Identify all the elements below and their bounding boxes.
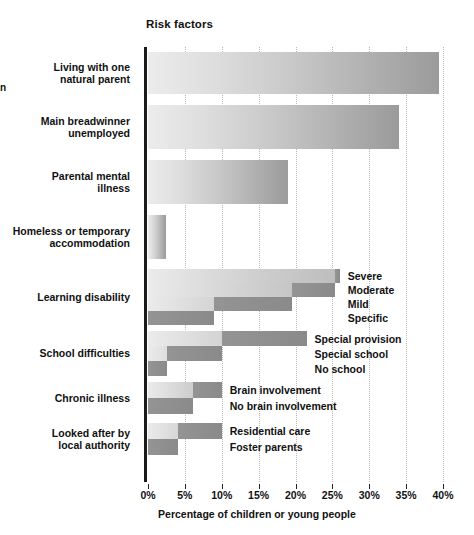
series-label: No school xyxy=(315,363,366,375)
bar-segment xyxy=(222,331,307,346)
bar-segment xyxy=(148,398,193,414)
x-tick-label: 20% xyxy=(285,489,306,501)
x-tick-label: 10% xyxy=(211,489,232,501)
category-label: Chronic illness xyxy=(0,392,139,405)
bar-segment xyxy=(167,346,222,361)
series-label: Residential care xyxy=(230,425,311,437)
series-label: Special provision xyxy=(315,333,402,345)
bar-segment xyxy=(292,283,335,297)
bar xyxy=(148,105,399,149)
category-label: School difficulties xyxy=(0,347,139,360)
x-axis-title: Percentage of children or young people xyxy=(0,508,474,520)
x-axis-ticks: 0%5%10%15%20%25%30%35%40% xyxy=(148,484,443,500)
x-tick-label: 40% xyxy=(432,489,453,501)
series-label: Special school xyxy=(315,348,389,360)
x-tick-label: 0% xyxy=(140,489,155,501)
x-tick-label: 5% xyxy=(177,489,192,501)
series-label: No brain involvement xyxy=(230,400,337,412)
category-label-column: Living with one natural parentMain bread… xyxy=(0,47,139,482)
bar-segment xyxy=(193,382,222,398)
y-axis-line xyxy=(144,47,147,482)
bar-segment xyxy=(148,439,178,455)
bar xyxy=(148,160,288,204)
x-tick-label: 35% xyxy=(396,489,417,501)
bar xyxy=(148,215,166,259)
x-tick-label: 30% xyxy=(359,489,380,501)
bar-segment xyxy=(335,269,340,283)
series-label: Foster parents xyxy=(230,441,303,453)
category-label: Homeless or temporary accommodation xyxy=(0,225,139,250)
x-tick-label: 25% xyxy=(322,489,343,501)
x-tick-label: 15% xyxy=(248,489,269,501)
series-label: Mild xyxy=(348,298,369,310)
series-label: Severe xyxy=(348,270,382,282)
series-label: Specific xyxy=(348,312,388,324)
bar-segment-total xyxy=(148,269,340,283)
series-label: Brain involvement xyxy=(230,384,321,396)
gridline xyxy=(443,47,444,482)
plot-area: SevereModerateMildSpecificSpecial provis… xyxy=(148,47,443,482)
chart-title: Risk factors xyxy=(146,18,213,30)
bar-segment xyxy=(214,297,291,311)
category-label: Main breadwinner unemployed xyxy=(0,115,139,140)
category-label: Learning disability xyxy=(0,291,139,304)
bar-segment xyxy=(148,311,214,325)
gridline xyxy=(406,47,407,482)
bar xyxy=(148,52,439,94)
category-label: Parental mental illness xyxy=(0,170,139,195)
bar-segment xyxy=(148,361,167,376)
series-label: Moderate xyxy=(348,284,395,296)
category-label: Looked after by local authority xyxy=(0,427,139,452)
bar-segment xyxy=(178,423,222,439)
category-label: Living with one natural parent xyxy=(0,61,139,86)
